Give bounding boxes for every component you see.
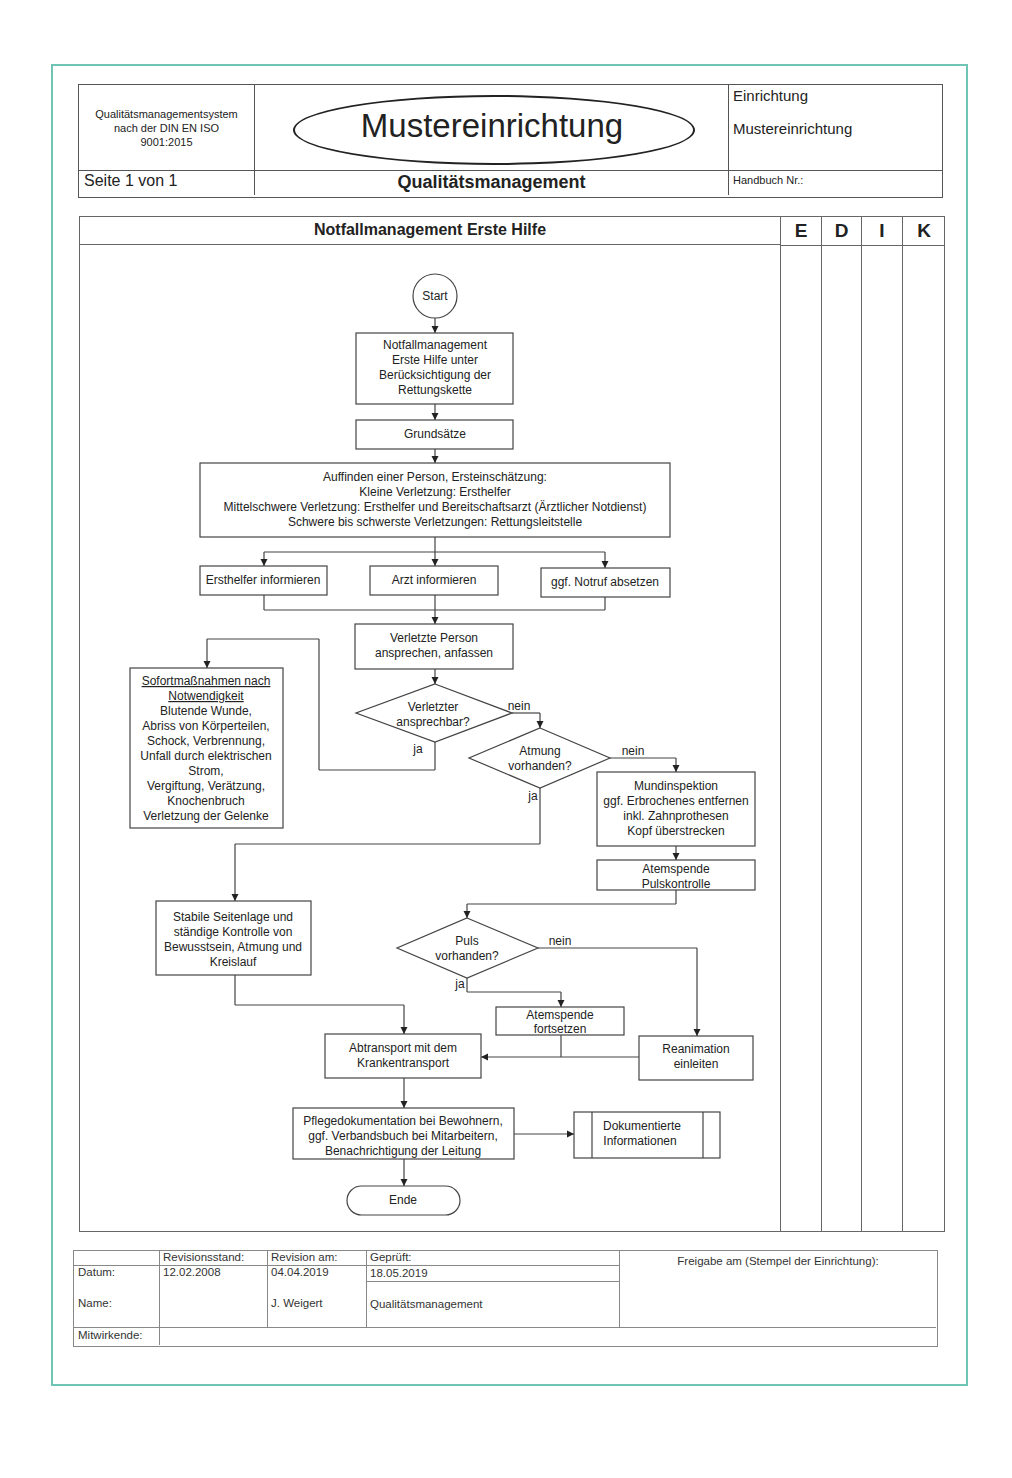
decision3-line: Puls	[455, 934, 478, 948]
name-checked: Qualitätsmanagement	[370, 1298, 483, 1310]
measures-line: Blutende Wunde,	[160, 704, 252, 718]
step2-label: Grundsätze	[404, 427, 466, 441]
decision-pulse	[397, 918, 538, 978]
yes-label: ja	[412, 742, 423, 756]
measures-line: Abriss von Körperteilen,	[142, 719, 269, 733]
emergency-call-label: ggf. Notruf absetzen	[551, 575, 659, 589]
revision-footer: Revisionsstand: Revision am: Geprüft: Da…	[73, 1250, 938, 1347]
documentation-line: ggf. Verbandsbuch bei Mitarbeitern,	[308, 1129, 497, 1143]
recovery-line: ständige Kontrolle von	[174, 925, 293, 939]
date-checked: 18.05.2019	[370, 1267, 428, 1279]
docinfo-line: Dokumentierte	[603, 1119, 681, 1133]
step1-line: Rettungskette	[398, 383, 472, 397]
documentation-line: Benachrichtigung der Leitung	[325, 1144, 481, 1158]
mouth-line: inkl. Zahnprothesen	[623, 809, 728, 823]
no-label: nein	[622, 744, 645, 758]
measures-line: Knochenbruch	[167, 794, 244, 808]
date-label: Datum:	[78, 1266, 115, 1278]
no-label: nein	[549, 934, 572, 948]
step1-line: Erste Hilfe unter	[392, 353, 478, 367]
recovery-line: Stabile Seitenlage und	[173, 910, 293, 924]
resuscitation-line: Reanimation	[662, 1042, 729, 1056]
inform-helper-label: Ersthelfer informieren	[206, 573, 321, 587]
contributors-label: Mitwirkende:	[78, 1329, 143, 1341]
header-revision-date: Revision am:	[271, 1251, 337, 1263]
revision-grid: Revisionsstand: Revision am: Geprüft: Da…	[74, 1251, 619, 1327]
continue-line: Atemspende	[526, 1008, 594, 1022]
yes-label: ja	[527, 789, 538, 803]
transport-line: Krankentransport	[357, 1056, 450, 1070]
measures-title: Sofortmaßnahmen nach	[142, 674, 271, 688]
step1-line: Notfallmanagement	[383, 338, 488, 352]
measures-line: Strom,	[188, 764, 223, 778]
step3-line: Auffinden einer Person, Ersteinschätzung…	[323, 470, 547, 484]
header-revision-status: Revisionsstand:	[163, 1251, 244, 1263]
mouth-line: ggf. Erbrochenes entfernen	[603, 794, 748, 808]
no-label: nein	[508, 699, 531, 713]
mouth-line: Mundinspektion	[634, 779, 718, 793]
resuscitation-line: einleiten	[674, 1057, 719, 1071]
end-label: Ende	[389, 1193, 417, 1207]
release-stamp-field: Freigabe am (Stempel der Einrichtung):	[619, 1251, 936, 1327]
decision2-line: Atmung	[519, 744, 560, 758]
yes-label: ja	[454, 977, 465, 991]
transport-line: Abtransport mit dem	[349, 1041, 457, 1055]
address-line: ansprechen, anfassen	[375, 646, 493, 660]
measures-line: Verletzung der Gelenke	[143, 809, 269, 823]
header-checked: Geprüft:	[370, 1251, 412, 1263]
decision3-line: vorhanden?	[435, 949, 499, 963]
ventilation-line: Pulskontrolle	[642, 877, 711, 891]
step3-line: Kleine Verletzung: Ersthelfer	[359, 485, 510, 499]
recovery-line: Kreislauf	[210, 955, 257, 969]
decision1-line: Verletzter	[408, 700, 459, 714]
decision2-line: vorhanden?	[508, 759, 572, 773]
documentation-line: Pflegedokumentation bei Bewohnern,	[303, 1114, 502, 1128]
start-label: Start	[422, 289, 448, 303]
ventilation-line: Atemspende	[642, 862, 710, 876]
measures-line: Unfall durch elektrischen	[140, 749, 271, 763]
measures-line: Schock, Verbrennung,	[147, 734, 265, 748]
date-revision: 04.04.2019	[271, 1266, 329, 1278]
mouth-line: Kopf überstrecken	[627, 824, 724, 838]
address-line: Verletzte Person	[390, 631, 478, 645]
inform-doctor-label: Arzt informieren	[392, 573, 477, 587]
step3-line: Mittelschwere Verletzung: Ersthelfer und…	[224, 500, 647, 514]
continue-line: fortsetzen	[534, 1022, 587, 1036]
decision1-line: ansprechbar?	[396, 715, 470, 729]
decision-breathing	[469, 728, 610, 788]
name-label: Name:	[78, 1297, 112, 1309]
step3-line: Schwere bis schwerste Verletzungen: Rett…	[288, 515, 582, 529]
measures-line: Vergiftung, Verätzung,	[147, 779, 265, 793]
name-revision: J. Weigert	[271, 1297, 323, 1309]
recovery-line: Bewusstsein, Atmung und	[164, 940, 302, 954]
measures-title: Notwendigkeit	[168, 689, 244, 703]
step1-line: Berücksichtigung der	[379, 368, 491, 382]
date-revision-status: 12.02.2008	[163, 1266, 221, 1278]
docinfo-line: Informationen	[603, 1134, 676, 1148]
